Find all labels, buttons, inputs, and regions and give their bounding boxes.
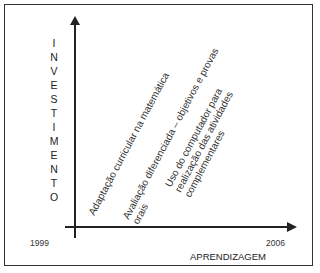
x-end-year: 2006 <box>266 238 285 248</box>
y-axis-label: I N V E S T I M E N T O <box>48 36 60 204</box>
y-label-letter: I <box>48 120 60 134</box>
x-axis-label: APRENDIZAGEM <box>190 251 266 262</box>
x-start-year: 1999 <box>30 238 49 248</box>
y-label-letter: S <box>48 92 60 106</box>
y-label-letter: T <box>48 176 60 190</box>
y-label-letter: E <box>48 148 60 162</box>
y-label-letter: I <box>48 36 60 50</box>
y-label-letter: T <box>48 106 60 120</box>
y-axis-arrow-icon <box>70 16 80 25</box>
y-label-letter: O <box>48 190 60 204</box>
y-label-letter: E <box>48 78 60 92</box>
x-axis-arrow-icon <box>287 222 297 232</box>
y-label-letter: N <box>48 50 60 64</box>
y-axis-line <box>74 18 76 238</box>
y-label-letter: V <box>48 64 60 78</box>
y-label-letter: M <box>48 134 60 148</box>
x-axis-line <box>65 226 293 228</box>
y-label-letter: N <box>48 162 60 176</box>
